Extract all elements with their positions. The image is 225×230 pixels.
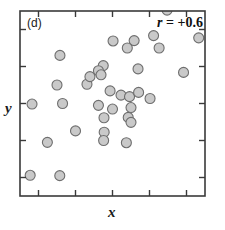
data-point	[145, 94, 155, 104]
data-point	[55, 171, 65, 181]
data-point	[126, 117, 136, 127]
data-point	[179, 67, 189, 77]
data-point	[122, 43, 132, 53]
correlation-annotation: r = +0.6	[157, 16, 203, 30]
data-point	[125, 92, 135, 102]
data-point	[42, 137, 52, 147]
data-point	[52, 80, 62, 90]
data-point	[27, 99, 37, 109]
plot-canvas	[0, 0, 225, 230]
data-point	[194, 33, 204, 43]
data-point	[133, 64, 143, 74]
correlation-value: +0.6	[178, 15, 203, 30]
data-point	[85, 72, 95, 82]
data-point	[108, 36, 118, 46]
data-point	[134, 87, 144, 97]
correlation-relation: =	[163, 15, 178, 30]
data-point	[99, 136, 109, 146]
data-point	[121, 138, 131, 148]
data-point	[108, 104, 118, 114]
y-axis-label: y	[5, 101, 12, 116]
data-point	[25, 170, 35, 180]
data-point	[126, 103, 136, 113]
panel-label: (d)	[27, 17, 42, 29]
data-point	[55, 50, 65, 60]
data-point	[162, 5, 172, 15]
data-point	[105, 86, 115, 96]
data-point	[154, 43, 164, 53]
data-point	[71, 126, 81, 136]
data-point	[58, 99, 68, 109]
data-point	[149, 31, 159, 41]
data-point	[99, 113, 109, 123]
data-point	[96, 70, 106, 80]
scatter-plot-figure: (d) r = +0.6 y x	[0, 0, 225, 230]
data-point	[93, 100, 103, 110]
x-axis-label: x	[108, 205, 116, 220]
